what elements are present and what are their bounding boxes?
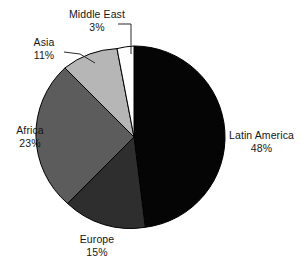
pie-label-asia-name: Asia	[16, 36, 72, 49]
pie-label-europe-value: 15%	[60, 246, 134, 259]
pie-label-middle-east: Middle East 3%	[45, 8, 149, 33]
pie-label-middle-east-name: Middle East	[45, 8, 149, 21]
pie-label-africa: Africa 23%	[2, 124, 58, 149]
pie-label-asia: Asia 11%	[16, 36, 72, 61]
pie-label-latin-america-name: Latin America	[229, 129, 294, 142]
pie-label-africa-value: 23%	[2, 137, 58, 150]
pie-label-latin-america-value: 48%	[229, 142, 294, 155]
pie-label-latin-america: Latin America 48%	[229, 129, 294, 154]
pie-label-asia-value: 11%	[16, 49, 72, 62]
pie-label-europe-name: Europe	[60, 233, 134, 246]
pie-label-middle-east-value: 3%	[45, 21, 149, 34]
pie-label-europe: Europe 15%	[60, 233, 134, 258]
pie-chart: Latin America 48% Europe 15% Africa 23% …	[0, 0, 308, 266]
pie-label-africa-name: Africa	[2, 124, 58, 137]
pie-slice-latin-america[interactable]	[134, 46, 225, 227]
